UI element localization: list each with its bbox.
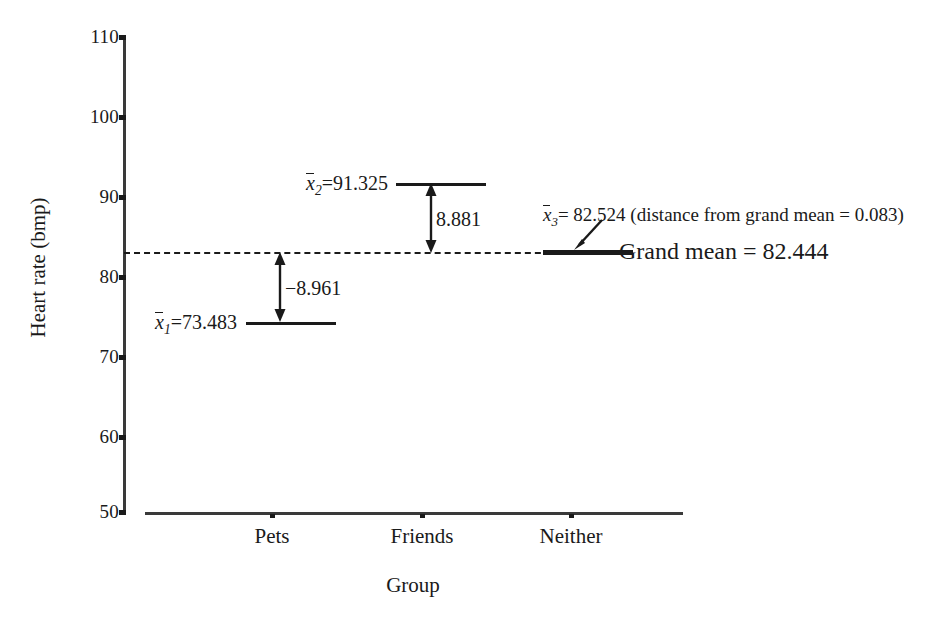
y-axis-title: Heart rate (bmp) bbox=[26, 168, 51, 368]
x-axis-title: Group bbox=[333, 573, 493, 598]
x-bar-subscript-2: 2 bbox=[315, 183, 322, 198]
grand-mean-line bbox=[124, 252, 611, 254]
group-mean-label-pets: x1=73.483 bbox=[155, 311, 237, 341]
y-tick-label-90: 90 bbox=[75, 187, 119, 206]
x-bar-symbol-3: x bbox=[543, 204, 551, 226]
x-tick-label-pets: Pets bbox=[192, 524, 352, 548]
deviation-value-pets: −8.961 bbox=[285, 277, 341, 300]
x-bar-subscript-1: 1 bbox=[164, 322, 171, 337]
x-tick-label-friends: Friends bbox=[342, 524, 502, 548]
y-tick-mark-70 bbox=[119, 355, 126, 360]
y-tick-mark-110 bbox=[119, 35, 126, 40]
group-mean-line-pets bbox=[246, 322, 336, 325]
y-tick-mark-90 bbox=[119, 195, 126, 200]
x-tick-mark-neither bbox=[569, 514, 574, 518]
y-tick-label-110: 110 bbox=[75, 27, 119, 46]
y-tick-label-50: 50 bbox=[75, 502, 119, 521]
chart-figure: 110 100 90 80 70 60 50 Pets Friends Neit… bbox=[0, 0, 952, 629]
pointer-arrow-neither bbox=[570, 216, 610, 256]
x-tick-mark-friends bbox=[420, 514, 425, 518]
group-mean-value-friends: =91.325 bbox=[322, 172, 388, 194]
y-tick-mark-100 bbox=[119, 115, 126, 120]
y-tick-label-100: 100 bbox=[75, 107, 119, 126]
group-mean-value-pets: =73.483 bbox=[171, 311, 237, 333]
deviation-value-friends: 8.881 bbox=[436, 208, 481, 231]
y-tick-label-60: 60 bbox=[75, 427, 119, 446]
group-mean-line-friends bbox=[396, 183, 486, 186]
y-tick-mark-50 bbox=[119, 510, 126, 515]
y-tick-label-70: 70 bbox=[75, 347, 119, 366]
grand-mean-label: Grand mean = 82.444 bbox=[619, 238, 828, 265]
x-bar-symbol-2: x bbox=[306, 172, 315, 194]
y-tick-mark-60 bbox=[119, 435, 126, 440]
x-bar-symbol-1: x bbox=[155, 311, 164, 333]
x-axis-line bbox=[145, 512, 683, 515]
y-tick-label-80: 80 bbox=[75, 267, 119, 286]
x-tick-mark-pets bbox=[270, 514, 275, 518]
x-tick-label-neither: Neither bbox=[491, 524, 651, 548]
group-mean-label-friends: x2=91.325 bbox=[306, 172, 388, 202]
y-tick-mark-80 bbox=[119, 275, 126, 280]
